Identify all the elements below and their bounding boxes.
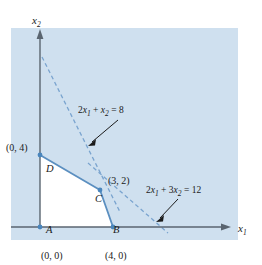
coord-label-b: (4, 0)	[105, 250, 127, 262]
vertex-label-b: B	[113, 224, 120, 235]
vertex-label-d: D	[45, 163, 54, 174]
linear-programming-figure: x2 x1 A B C D (0, 0) (4, 0) (3, 2) (0, 4…	[0, 0, 262, 265]
vertex-marker-c	[98, 188, 103, 193]
vertex-marker-d	[38, 153, 43, 158]
vertex-label-c: C	[95, 193, 103, 204]
coord-label-d: (0, 4)	[6, 142, 28, 154]
vertex-label-a: A	[45, 224, 53, 235]
coord-label-c: (3, 2)	[108, 175, 130, 187]
coord-label-a: (0, 0)	[41, 250, 63, 262]
vertex-marker-a	[38, 225, 43, 230]
